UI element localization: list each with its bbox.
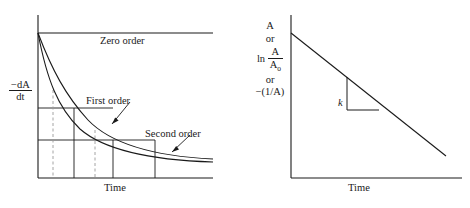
right-y-axis-ln-prefix: ln (257, 53, 265, 64)
arrow-head-first-order (112, 117, 119, 124)
left-y-axis-numerator: −dA (9, 79, 32, 91)
left-panel-annotation-arrows (112, 102, 190, 152)
right-y-axis-line-1: A (252, 20, 288, 33)
slope-label-k: k (338, 97, 343, 108)
right-x-axis-label: Time (348, 182, 370, 193)
right-y-axis-line-2: or (252, 33, 288, 46)
right-y-axis-fraction-numerator: A (268, 46, 283, 60)
right-y-axis-fraction-denominator-subscript: o (277, 64, 281, 73)
right-y-axis-fraction-denominator: Ao (268, 59, 283, 73)
right-y-axis-line-5: −(1/A) (252, 86, 288, 99)
right-panel-curves (291, 33, 446, 156)
right-y-axis-log-fraction: ln A Ao (252, 46, 288, 74)
left-y-axis-label: −dA dt (9, 79, 32, 102)
slope-triangle (347, 77, 379, 110)
left-y-axis-denominator: dt (9, 91, 32, 102)
right-y-axis-line-4: or (252, 74, 288, 87)
label-second-order: Second order (145, 128, 201, 139)
right-panel-axes (291, 15, 462, 178)
left-x-axis-label: Time (104, 182, 126, 193)
label-first-order: First order (86, 95, 130, 106)
right-y-axis-label: A or ln A Ao or −(1/A) (252, 20, 288, 99)
label-zero-order: Zero order (100, 35, 145, 46)
curve-linear-rate-plot (291, 33, 446, 156)
kinetics-figure: −dA dt Zero order First order Second ord… (0, 0, 470, 208)
figure-vector-layer (0, 0, 470, 208)
